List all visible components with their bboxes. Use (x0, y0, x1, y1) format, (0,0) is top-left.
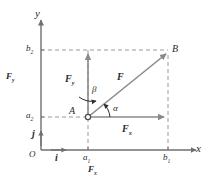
dimension-label-Fy: Fy (6, 72, 15, 83)
force-vectors (88, 54, 166, 117)
dimension-label-Fx: Fx (88, 165, 97, 176)
y-axis-label: y (35, 8, 40, 19)
tick-label-b1: b1 (163, 153, 170, 164)
tick-marks (41, 50, 168, 150)
tick-label-b2: b2 (26, 44, 33, 55)
origin-label: O (29, 150, 36, 159)
vector-label-F: F (117, 72, 124, 82)
point-label-A: A (69, 106, 75, 116)
point-A-marker (85, 114, 90, 119)
unit-vectors (41, 131, 66, 150)
x-axis-label: x (196, 143, 201, 154)
arc-alpha (104, 104, 110, 117)
point-markers (85, 114, 90, 119)
unit-vector-label-j: j (32, 129, 35, 139)
unit-vector-label-i: i (55, 153, 58, 163)
angle-label-beta: β (92, 85, 96, 94)
force-decomposition-figure: y x O b2 a2 a1 b1 A B F Fy Fx α β i j Fy… (0, 0, 210, 181)
angle-label-alpha: α (113, 104, 118, 113)
vector-label-Fx: Fx (122, 124, 132, 136)
vector-F (88, 54, 166, 117)
angle-arcs (79, 97, 110, 117)
point-label-B: B (172, 44, 178, 54)
tick-label-a2: a2 (26, 111, 33, 122)
dashed-guides (41, 50, 168, 150)
vector-label-Fy: Fy (65, 74, 74, 86)
tick-label-a1: a1 (83, 153, 90, 164)
